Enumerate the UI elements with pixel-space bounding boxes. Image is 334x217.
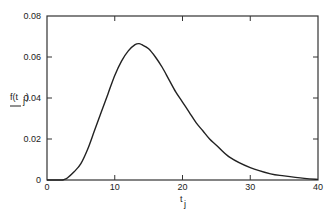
data-curve	[47, 44, 318, 180]
x-axis-label-main: t	[180, 194, 183, 204]
x-tick-label: 40	[313, 182, 323, 192]
y-tick-label: 0	[36, 175, 41, 185]
x-tick-label: 10	[110, 182, 120, 192]
y-axis-label-main: f(t	[10, 92, 18, 102]
chart: 010203040 00.020.040.060.08 t j f(t j )	[0, 0, 334, 217]
y-axis-label-subscript: j	[22, 96, 25, 106]
y-tick-label: 0.02	[23, 134, 41, 144]
plot-frame	[47, 16, 318, 180]
y-axis-label: f(t j )	[10, 92, 29, 106]
y-axis-label-close: )	[26, 92, 29, 102]
x-tick-label: 30	[245, 182, 255, 192]
y-tick-label: 0.06	[23, 52, 41, 62]
x-tick-label: 0	[44, 182, 49, 192]
x-tick-label: 20	[177, 182, 187, 192]
y-axis-ticks: 00.020.040.060.08	[23, 11, 318, 185]
x-axis-label: t j	[180, 194, 186, 209]
y-tick-label: 0.08	[23, 11, 41, 21]
x-axis-label-subscript: j	[183, 199, 186, 209]
plot-border	[47, 16, 318, 180]
